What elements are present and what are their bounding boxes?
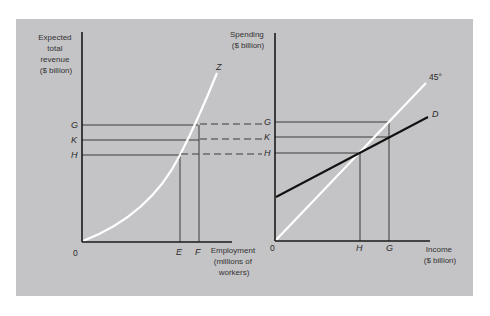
right-tick-g-x: G	[386, 243, 393, 253]
left-tick-k: K	[71, 135, 78, 145]
left-tick-h: H	[71, 150, 78, 160]
line-d-label: D	[432, 109, 439, 119]
left-tick-e: E	[176, 247, 183, 257]
right-tick-g: G	[264, 117, 271, 127]
left-tick-f: F	[195, 247, 201, 257]
keynesian-diagram: Expected total revenue ($ billion) Z G K…	[0, 0, 490, 316]
left-origin-label: 0	[73, 248, 78, 258]
line-45-label: 45°	[429, 72, 442, 82]
curve-z-label: Z	[215, 62, 222, 72]
left-tick-g: G	[71, 120, 78, 130]
right-origin-label: 0	[270, 243, 275, 253]
right-tick-h: H	[264, 148, 271, 158]
right-tick-k: K	[264, 132, 271, 142]
right-tick-h-x: H	[356, 243, 363, 253]
